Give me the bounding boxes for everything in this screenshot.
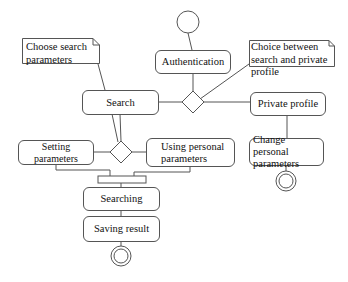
final-node-bottom-inner — [114, 249, 128, 263]
activity-searching: Searching — [83, 187, 160, 211]
note-choice-between: Choice between search and private profil… — [249, 40, 335, 67]
activity-label: Change personal parameters — [253, 134, 323, 170]
activity-label: Using personal parameters — [161, 141, 234, 165]
activity-label: Setting parameters — [19, 141, 93, 165]
final-node-right-inner — [279, 174, 293, 188]
initial-node — [177, 11, 199, 33]
activity-label: Searching — [101, 193, 143, 205]
activity-label: Private profile — [258, 98, 318, 110]
activity-label: Authentication — [162, 56, 224, 68]
decision-node-2 — [110, 141, 132, 163]
decision-node-1 — [182, 91, 204, 113]
activity-change-personal-parameters: Change personal parameters — [249, 138, 324, 166]
activity-authentication: Authentication — [155, 50, 231, 74]
activity-label: Saving result — [94, 223, 149, 235]
activity-private-profile: Private profile — [250, 92, 326, 116]
join-bar — [98, 176, 146, 183]
activity-search: Search — [82, 90, 159, 115]
note-choose-search-parameters: Choose search parameters — [22, 38, 100, 64]
activity-using-personal-parameters: Using personal parameters — [146, 138, 235, 167]
activity-setting-parameters: Setting parameters — [18, 140, 94, 165]
activity-saving-result: Saving result — [83, 216, 160, 242]
activity-label: Search — [106, 97, 135, 109]
